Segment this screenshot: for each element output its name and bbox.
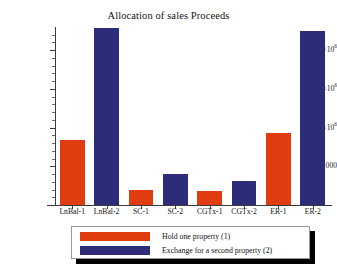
legend-label: Exchange for a second property (2) [162,246,272,255]
legend-color-swatch [80,232,150,241]
bar-lnbal-1 [60,140,85,205]
x-tick-label-er-1: ER-1 [270,207,286,216]
bar-lnbal-2 [94,28,119,205]
x-tick-label-er-2: ER-2 [305,207,321,216]
bar-chart-figure: Allocation of sales Proceeds 500 0001.0×… [0,0,337,273]
legend-entry: Hold one property (1) [72,229,309,243]
bar-er-2 [300,31,325,205]
x-tick-label-lnbal-1: LnBal-1 [59,207,85,216]
chart-legend: Hold one property (1)Exchange for a seco… [71,226,310,259]
x-tick-label-cgtx-1: CGTx-1 [197,207,223,216]
bar-sc-1 [129,190,154,205]
legend-entry: Exchange for a second property (2) [72,243,309,257]
x-tick-label-cgtx-2: CGTx-2 [231,207,257,216]
legend-color-swatch [80,246,150,255]
bar-sc-2 [163,174,188,205]
x-tick-label-lnbal-2: LnBal-2 [94,207,120,216]
legend-label: Hold one property (1) [162,232,230,241]
x-axis-line [47,205,332,206]
x-tick-label-sc-1: SC-1 [133,207,149,216]
bars-layer [0,0,337,205]
bar-cgtx-2 [232,181,257,205]
x-tick-label-sc-2: SC-2 [167,207,183,216]
bar-er-1 [266,133,291,205]
bar-cgtx-1 [197,191,222,205]
